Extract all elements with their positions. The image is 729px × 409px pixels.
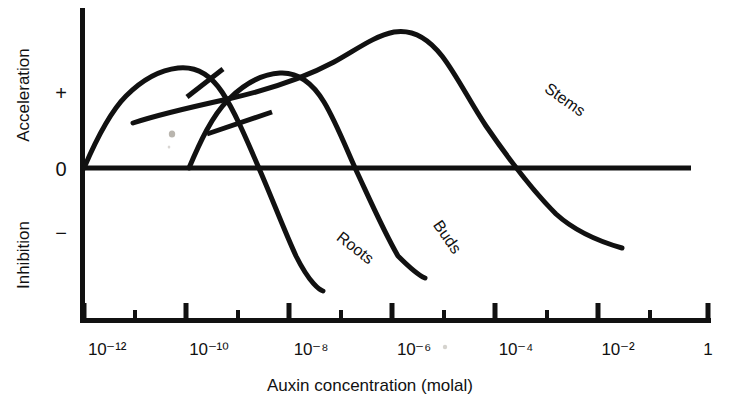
y-axis-title-inhibition: Inhibition <box>14 221 33 289</box>
x-tick-label: 10⁻¹² <box>88 340 127 359</box>
x-tick-label: 10⁻¹⁰ <box>189 340 229 359</box>
figure-root: + 0 − Acceleration Inhibition 10⁻¹² 10⁻¹… <box>0 0 729 409</box>
curve-label-buds: Buds <box>430 217 465 257</box>
curve-label-roots: Roots <box>334 228 377 267</box>
axes-group <box>80 8 711 321</box>
x-tick-label: 1 <box>703 340 712 359</box>
curve-roots <box>84 68 323 291</box>
paper-speck <box>443 345 447 349</box>
x-tick-label: 10⁻⁶ <box>397 340 431 359</box>
x-tick-label: 10⁻² <box>602 340 635 359</box>
curve-labels-group: Roots Buds Stems <box>334 80 589 268</box>
y-axis-titles: Acceleration Inhibition <box>14 48 33 289</box>
curve-label-stems: Stems <box>542 80 589 120</box>
curve-buds <box>189 73 425 278</box>
y-mark-plus: + <box>55 82 67 104</box>
auxin-response-chart: + 0 − Acceleration Inhibition 10⁻¹² 10⁻¹… <box>0 0 729 409</box>
x-tick-label: 10⁻⁸ <box>294 340 328 359</box>
paper-speck <box>168 145 171 148</box>
y-mark-zero: 0 <box>55 158 66 180</box>
x-tick-labels: 10⁻¹² 10⁻¹⁰ 10⁻⁸ 10⁻⁶ 10⁻⁴ 10⁻² 1 <box>88 340 713 359</box>
y-axis-marks: + 0 − <box>55 82 67 244</box>
x-axis-title: Auxin concentration (molal) <box>267 376 473 395</box>
y-axis-title-acceleration: Acceleration <box>14 48 33 142</box>
x-tick-label: 10⁻⁴ <box>499 340 533 359</box>
paper-speck <box>169 130 175 137</box>
y-mark-minus: − <box>55 222 67 244</box>
x-axis-ticks <box>84 303 708 320</box>
scan-specks-group <box>168 130 448 349</box>
